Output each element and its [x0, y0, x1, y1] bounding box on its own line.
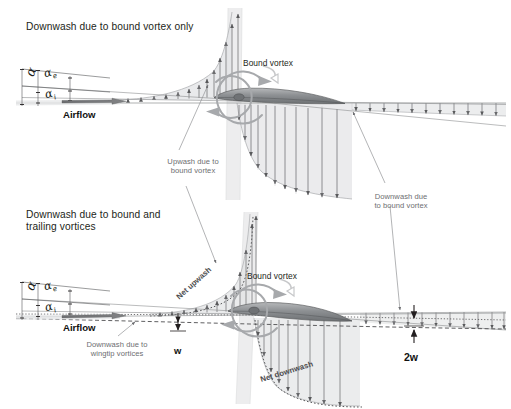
downwash-bound-vortex-label: Downwash dueto bound vortex: [355, 192, 447, 211]
lower-airflow-label: Airflow: [63, 322, 96, 334]
upper-panel-title: Downwash due to bound vortex only: [26, 21, 194, 33]
upper-downwash-leader: [353, 112, 385, 183]
diagram-canvas: Downwash due to bound vortex only α αe α…: [0, 0, 511, 409]
two-w-label: 2w: [404, 351, 418, 364]
upper-panel-graphics: [16, 8, 506, 205]
upwash-bound-leader-lower: [186, 186, 216, 263]
upper-bound-vortex-label: Bound vortex: [243, 58, 293, 68]
lower-panel-title: Downwash due to bound andtrailing vortic…: [26, 209, 160, 234]
lower-bound-vortex-label: Bound vortex: [247, 271, 297, 281]
w-label: w: [174, 345, 181, 356]
downwash-bound-leader-lower: [390, 206, 400, 310]
downwash-wingtip-vortices-label: Downwash due towingtip vortices: [58, 340, 176, 359]
upper-airflow-label: Airflow: [63, 109, 96, 121]
upwash-bound-vortex-label: Upwash due tobound vortex: [147, 157, 239, 176]
wingtip-downwash-leader: [118, 322, 135, 336]
